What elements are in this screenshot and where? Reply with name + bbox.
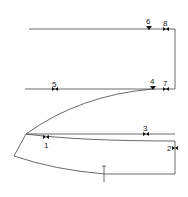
notch-marker-1: 1	[43, 135, 49, 150]
marker-label-2: 2	[167, 144, 172, 153]
marker-label-4: 4	[150, 77, 155, 86]
notch-marker-4: 4	[150, 77, 156, 90]
marker-label-1: 1	[44, 141, 49, 150]
marker-label-3: 3	[143, 124, 148, 133]
notch-marker-2: 2	[167, 144, 178, 153]
marker-label-8: 8	[163, 19, 168, 28]
marker-label-7: 7	[163, 79, 168, 88]
curved-seam-line	[26, 89, 153, 134]
pattern-lines	[14, 29, 175, 182]
bowtie-icon	[43, 135, 49, 139]
marker-label-5: 5	[52, 80, 57, 89]
pattern-diagram: 1 2 3 4 5 6 7	[0, 0, 188, 197]
lower-top-edge-line	[26, 134, 175, 174]
markers: 1 2 3 4 5 6 7	[43, 17, 178, 153]
notch-marker-6: 6	[146, 17, 152, 30]
marker-label-6: 6	[146, 17, 151, 26]
lower-piece-outline	[14, 134, 175, 174]
